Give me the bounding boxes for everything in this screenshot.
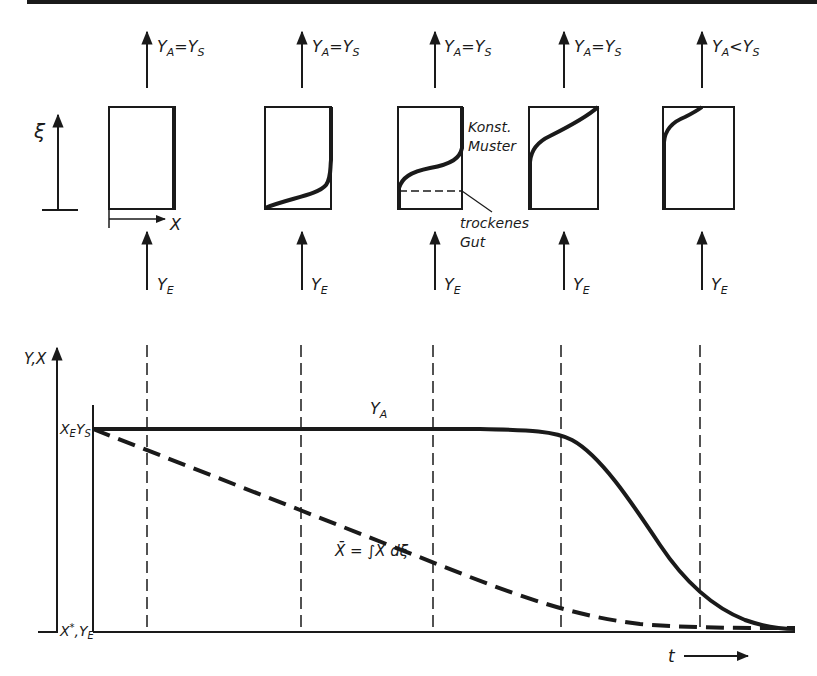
panel-4: YA=YS YE	[529, 32, 622, 297]
svg-text:YE: YE	[711, 275, 728, 297]
bed-box	[398, 107, 462, 209]
panel-1: YA=YS X YE	[109, 32, 205, 297]
profile-curve	[664, 107, 702, 209]
xbar-label: X̄ = ∫X dξ	[334, 541, 409, 560]
svg-text:YA=YS: YA=YS	[312, 37, 360, 59]
trocken-annotation-1: trockenes	[460, 215, 529, 231]
xi-label: ξ	[33, 119, 46, 143]
xbar-curve	[93, 429, 795, 628]
breakthrough-chart: Y,X XEYS X*,YE YA X̄ = ∫X dξ t	[24, 345, 795, 666]
bed-box	[529, 107, 598, 209]
tick-top: XEYS	[59, 421, 91, 439]
y-axis-label: Y,X	[24, 350, 47, 368]
svg-text:YA=YS: YA=YS	[444, 37, 492, 59]
ya-curve	[93, 429, 795, 629]
konst-annotation-1: Konst.	[468, 119, 511, 135]
bed-box	[109, 107, 175, 209]
t-axis-label: t	[668, 646, 676, 666]
drying-diagram: ξ YA=YS X YE YA=YS YE YA=YS Konst. Muste…	[0, 0, 817, 676]
konst-annotation-2: Muster	[468, 138, 517, 154]
svg-text:YE: YE	[157, 275, 174, 297]
panel-2: YA=YS YE	[265, 32, 360, 297]
tick-bottom: X*,YE	[59, 622, 95, 641]
bed-box	[265, 107, 331, 209]
svg-text:YA=YS: YA=YS	[157, 37, 205, 59]
profile-curve	[530, 107, 598, 209]
trocken-annotation-2: Gut	[460, 234, 486, 250]
panel-5: YA<YS YE	[663, 32, 760, 297]
xi-axis: ξ	[33, 115, 78, 210]
svg-text:YE: YE	[444, 275, 461, 297]
profile-curve	[265, 107, 331, 208]
top-rule	[27, 0, 817, 4]
ya-label: YA	[370, 399, 387, 421]
leader-line	[462, 191, 492, 212]
svg-text:YE: YE	[573, 275, 590, 297]
profile-curve	[399, 107, 462, 188]
x-label: X	[169, 215, 182, 234]
svg-text:YE: YE	[311, 275, 328, 297]
svg-text:YA<YS: YA<YS	[712, 37, 760, 59]
panel-3: YA=YS Konst. Muster trockenes Gut YE	[398, 32, 529, 297]
svg-text:YA=YS: YA=YS	[574, 37, 622, 59]
time-markers	[147, 345, 700, 632]
